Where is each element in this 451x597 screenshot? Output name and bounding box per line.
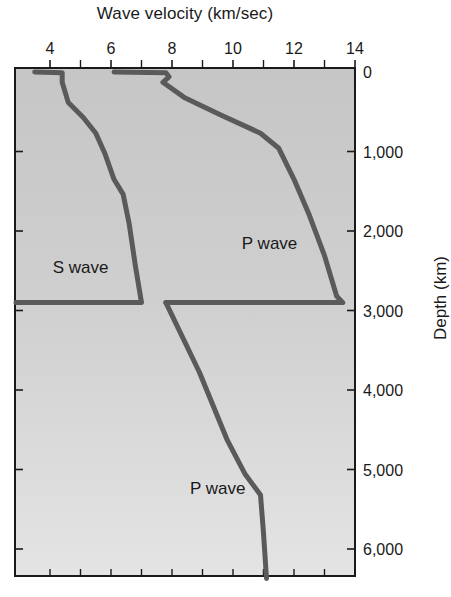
x-tick-label: 12 bbox=[285, 40, 303, 57]
y-tick-label: 2,000 bbox=[363, 223, 403, 240]
y-tick-label: 3,000 bbox=[363, 303, 403, 320]
y-tick-label: 1,000 bbox=[363, 144, 403, 161]
curve-label: P wave bbox=[242, 234, 297, 253]
curve-label: P wave bbox=[190, 479, 245, 498]
x-tick-label: 10 bbox=[224, 40, 242, 57]
plot-area bbox=[15, 68, 355, 576]
y-tick-label: 5,000 bbox=[363, 462, 403, 479]
y-tick-label: 6,000 bbox=[363, 541, 403, 558]
curve-label: S wave bbox=[53, 258, 109, 277]
x-tick-label: 6 bbox=[107, 40, 116, 57]
y-tick-label: 0 bbox=[363, 64, 372, 81]
y-tick-label: 4,000 bbox=[363, 382, 403, 399]
x-tick-label: 4 bbox=[46, 40, 55, 57]
x-tick-label: 14 bbox=[346, 40, 364, 57]
x-tick-label: 8 bbox=[168, 40, 177, 57]
